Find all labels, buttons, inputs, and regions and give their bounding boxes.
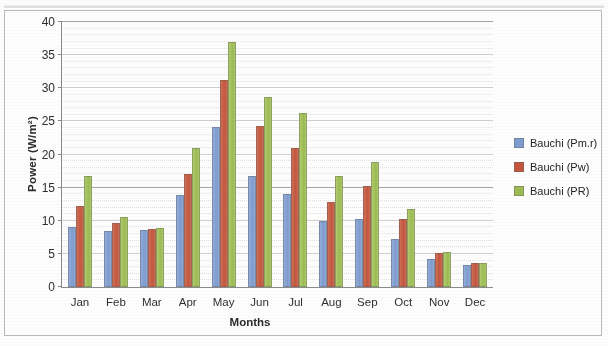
bar-group: Apr <box>170 22 206 287</box>
y-tick-label: 30 <box>42 81 55 95</box>
bar[interactable] <box>104 231 112 287</box>
bar-group: Aug <box>313 22 349 287</box>
bar-group: Mar <box>134 22 170 287</box>
bar[interactable] <box>335 176 343 287</box>
x-tick-label: Feb <box>106 296 126 308</box>
bar[interactable] <box>399 219 407 287</box>
bar[interactable] <box>319 221 327 287</box>
y-tick-label: 15 <box>42 181 55 195</box>
bar-group: Dec <box>457 22 493 287</box>
y-tick-label: 20 <box>42 148 55 162</box>
figure-frame-shadow <box>4 5 604 8</box>
x-tick-label: Jul <box>288 296 303 308</box>
bar-group: Sep <box>349 22 385 287</box>
bar[interactable] <box>391 239 399 287</box>
bar[interactable] <box>68 227 76 287</box>
legend-swatch-icon <box>514 162 524 172</box>
bar[interactable] <box>327 202 335 287</box>
bar-group: Feb <box>98 22 134 287</box>
legend-item[interactable]: Bauchi (Pw) <box>514 161 597 173</box>
y-tick-label: 0 <box>48 280 55 294</box>
bar[interactable] <box>479 263 487 287</box>
bar[interactable] <box>112 223 120 287</box>
legend-swatch-icon <box>514 186 524 196</box>
bar[interactable] <box>471 263 479 287</box>
bar[interactable] <box>256 126 264 287</box>
y-tick-label: 5 <box>48 247 55 261</box>
chart-figure: Power (W/m²) 0510152025303540 JanFebMarA… <box>0 0 608 346</box>
x-tick-label: Dec <box>465 296 485 308</box>
bar[interactable] <box>264 97 272 287</box>
bar[interactable] <box>355 219 363 287</box>
bar-group: Nov <box>421 22 457 287</box>
bar[interactable] <box>299 113 307 287</box>
bar[interactable] <box>140 230 148 287</box>
y-tick-label: 10 <box>42 214 55 228</box>
legend-swatch-icon <box>514 138 524 148</box>
bar[interactable] <box>407 209 415 287</box>
x-tick-label: Nov <box>429 296 449 308</box>
bar-series-container: JanFebMarAprMayJunJulAugSepOctNovDec <box>62 22 493 287</box>
x-tick-label: Aug <box>321 296 341 308</box>
x-axis-title: Months <box>0 316 500 328</box>
bar-group: Jul <box>278 22 314 287</box>
bar[interactable] <box>212 127 220 287</box>
x-tick-label: Mar <box>142 296 162 308</box>
bar[interactable] <box>435 253 443 287</box>
bar[interactable] <box>463 265 471 287</box>
bar[interactable] <box>443 252 451 287</box>
x-tick-label: Sep <box>357 296 377 308</box>
x-tick-label: Oct <box>394 296 412 308</box>
y-tick-label: 25 <box>42 114 55 128</box>
x-tick-label: Jan <box>71 296 90 308</box>
bar-group: Jan <box>62 22 98 287</box>
plot-area: 0510152025303540 JanFebMarAprMayJunJulAu… <box>61 22 493 288</box>
bar[interactable] <box>156 228 164 287</box>
legend-item[interactable]: Bauchi (PR) <box>514 185 597 197</box>
bar[interactable] <box>283 194 291 287</box>
bar[interactable] <box>184 174 192 287</box>
bar-group: May <box>206 22 242 287</box>
legend-label: Bauchi (PR) <box>530 185 589 197</box>
y-tick-label: 35 <box>42 48 55 62</box>
bar[interactable] <box>192 148 200 287</box>
bar[interactable] <box>371 162 379 287</box>
bar[interactable] <box>148 229 156 287</box>
chart-legend: Bauchi (Pm.r)Bauchi (Pw)Bauchi (PR) <box>514 137 597 197</box>
legend-item[interactable]: Bauchi (Pm.r) <box>514 137 597 149</box>
bar[interactable] <box>176 195 184 287</box>
x-tick-label: May <box>213 296 235 308</box>
bar[interactable] <box>228 42 236 287</box>
bar[interactable] <box>220 80 228 287</box>
bar[interactable] <box>363 186 371 287</box>
x-tick-label: Jun <box>250 296 269 308</box>
bar[interactable] <box>120 217 128 287</box>
bar[interactable] <box>84 176 92 287</box>
x-tick-label: Apr <box>179 296 197 308</box>
bar[interactable] <box>76 206 84 287</box>
legend-label: Bauchi (Pw) <box>530 161 589 173</box>
bar-group: Jun <box>242 22 278 287</box>
bar-group: Oct <box>385 22 421 287</box>
y-tick-label: 40 <box>42 15 55 29</box>
bar[interactable] <box>427 259 435 287</box>
y-axis-title: Power (W/m²) <box>26 74 38 234</box>
bar[interactable] <box>248 176 256 287</box>
bar[interactable] <box>291 148 299 287</box>
legend-label: Bauchi (Pm.r) <box>530 137 597 149</box>
